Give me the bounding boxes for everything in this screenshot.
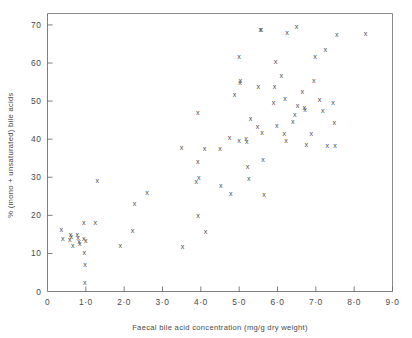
x-tick-label: 8·0	[347, 297, 361, 307]
data-point-marker: x	[219, 181, 223, 190]
data-point-marker: x	[284, 136, 288, 145]
data-point-marker: x	[228, 133, 232, 142]
data-point-marker: x	[275, 121, 279, 130]
data-point-marker: x	[60, 225, 64, 234]
y-tick-label: 60	[31, 58, 41, 68]
data-point-marker: x	[331, 98, 335, 107]
data-point-marker: x	[260, 25, 264, 34]
data-point-marker: x	[273, 82, 277, 91]
data-point-marker: x	[312, 76, 316, 85]
data-point-marker: x	[83, 248, 87, 257]
data-point-marker: x	[181, 242, 185, 251]
data-point-marker: x	[119, 241, 123, 250]
data-point-marker: x	[303, 105, 307, 114]
data-point-marker: x	[84, 236, 88, 245]
data-point-marker: x	[246, 162, 250, 171]
data-point-marker: x	[301, 87, 305, 96]
data-point-marker: x	[335, 30, 339, 39]
data-point-marker: x	[280, 71, 284, 80]
scatter-plot-figure: 01·02·03·04·05·06·07·08·09·0 10203040506…	[0, 0, 412, 338]
data-point-marker: x	[203, 144, 207, 153]
x-tick-label: 2·0	[117, 297, 131, 307]
data-point-marker: x	[229, 189, 233, 198]
data-point-marker: x	[257, 82, 261, 91]
y-tick-label: 20	[31, 210, 41, 220]
data-point-marker: x	[71, 241, 75, 250]
x-tick-label: 5·0	[232, 297, 246, 307]
data-point-marker: x	[309, 129, 313, 138]
data-point-marker: x	[324, 45, 328, 54]
data-point-marker: x	[333, 141, 337, 150]
y-axis-title: % (mono + unsaturated) bile acids	[6, 92, 15, 217]
x-tick-label: 0	[45, 297, 50, 307]
y-tick-label: 10	[31, 248, 41, 258]
data-point-marker: x	[83, 278, 87, 287]
y-tick-label: 50	[31, 96, 41, 106]
y-tick-label: 40	[31, 134, 41, 144]
data-point-marker: x	[96, 176, 100, 185]
data-point-marker: x	[131, 226, 135, 235]
x-tick-label: 3·0	[156, 297, 170, 307]
data-point-marker: x	[94, 218, 98, 227]
data-point-marker: x	[272, 98, 276, 107]
data-point-marker: x	[196, 157, 200, 166]
data-point-marker: x	[196, 211, 200, 220]
data-point-marker: x	[145, 188, 149, 197]
data-point-marker: x	[283, 94, 287, 103]
data-point-marker: x	[332, 118, 336, 127]
x-tick-label: 4·0	[194, 297, 208, 307]
data-point-marker: x	[204, 227, 208, 236]
data-point-marker: x	[295, 22, 299, 31]
data-point-marker: x	[196, 108, 200, 117]
data-point-marker: x	[233, 90, 237, 99]
y-tick-label: 30	[31, 172, 41, 182]
data-point-marker: x	[249, 114, 253, 123]
data-point-marker: x	[239, 76, 243, 85]
data-point-marker: x	[262, 190, 266, 199]
x-axis-ticks: 01·02·03·04·05·06·07·08·09·0	[45, 287, 399, 307]
data-point-marker: x	[261, 155, 265, 164]
x-tick-label: 6·0	[271, 297, 285, 307]
data-point-marker: x	[364, 29, 368, 38]
x-tick-label: 1·0	[79, 297, 93, 307]
x-tick-label: 7·0	[309, 297, 323, 307]
data-point-marker: x	[313, 52, 317, 61]
data-point-marker: x	[197, 173, 201, 182]
data-point-marker: x	[260, 128, 264, 137]
data-point-marker: x	[61, 234, 65, 243]
data-point-marker: x	[326, 141, 330, 150]
data-point-marker: x	[304, 140, 308, 149]
y-tick-label-zero: 0	[36, 287, 41, 297]
data-point-marker: x	[245, 137, 249, 146]
data-point-marker: x	[296, 101, 300, 110]
data-points-layer: xxxxxxxxxxxxxxxxxxxxxxxxxxxxxxxxxxxxxxxx…	[60, 22, 368, 287]
data-point-marker: x	[247, 174, 251, 183]
data-point-marker: x	[237, 52, 241, 61]
data-point-marker: x	[293, 110, 297, 119]
data-point-marker: x	[218, 144, 222, 153]
data-point-marker: x	[237, 136, 241, 145]
y-tick-label: 70	[31, 20, 41, 30]
data-point-marker: x	[318, 95, 322, 104]
data-point-marker: x	[321, 106, 325, 115]
data-point-marker: x	[82, 218, 86, 227]
data-point-marker: x	[83, 260, 87, 269]
x-axis-title: Faecal bile acid concentration (mg/g dry…	[132, 323, 308, 332]
data-point-marker: x	[256, 122, 260, 131]
data-point-marker: x	[274, 57, 278, 66]
y-axis-ticks: 102030405060700	[31, 20, 52, 297]
plot-canvas: 01·02·03·04·05·06·07·08·09·0 10203040506…	[0, 0, 412, 338]
data-point-marker: x	[180, 143, 184, 152]
data-point-marker: x	[285, 28, 289, 37]
x-tick-label: 9·0	[386, 297, 400, 307]
data-point-marker: x	[133, 199, 137, 208]
